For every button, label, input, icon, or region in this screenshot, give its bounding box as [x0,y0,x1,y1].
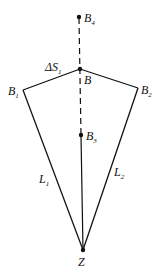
point-b [78,67,82,71]
segment-l1 [23,90,83,250]
segment-b3-z [81,135,83,250]
label-b: B [84,73,92,87]
label-b2: B2 [141,83,152,99]
label-b1: B1 [8,84,19,100]
point-b3 [79,133,83,137]
point-z [81,248,85,252]
kite-diagram: B4 B B1 B2 B3 Z ΔS1 L1 L2 [0,0,157,275]
label-b3: B3 [86,129,97,145]
dashed-axis [79,18,81,135]
label-l1: L1 [38,172,49,188]
label-b4: B4 [84,11,95,27]
label-delta-s1: ΔS1 [44,60,62,76]
segment-l2 [83,88,138,250]
label-l2: L2 [113,165,125,181]
label-z: Z [78,255,85,269]
point-b4 [77,15,81,19]
